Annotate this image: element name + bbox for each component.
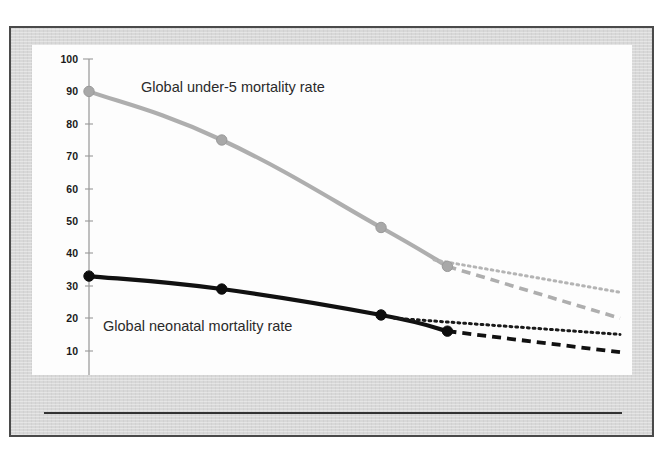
data-point-marker [376, 310, 386, 320]
y-tick-label-30: 30 [66, 280, 78, 292]
y-tick-label-90: 90 [66, 85, 78, 97]
y-tick-label-60: 60 [66, 183, 78, 195]
y-tick-label-10: 10 [66, 345, 78, 357]
y-tick-label-80: 80 [66, 118, 78, 130]
series-line-under5 [89, 91, 447, 266]
data-point-marker [217, 135, 227, 145]
data-point-marker [442, 261, 452, 271]
series-label-under5: Global under-5 mortality rate [141, 79, 325, 95]
y-tick-label-20: 20 [66, 312, 78, 324]
data-point-marker [84, 271, 94, 281]
y-tick-label-50: 50 [66, 215, 78, 227]
series-markers-under5 [84, 86, 453, 271]
data-point-marker [217, 284, 227, 294]
series-label-neonatal: Global neonatal mortality rate [103, 318, 292, 334]
y-tick-label-40: 40 [66, 247, 78, 259]
series-line-under5-projection-dotted [434, 260, 620, 292]
bottom-divider-rule [44, 412, 622, 414]
data-point-marker [84, 86, 94, 96]
series-line-neonatal-projection-dashed [447, 331, 620, 352]
y-tick-label-100: 100 [60, 53, 78, 65]
series-line-under5-projection-dashed [447, 266, 620, 318]
figure-page: 100 90 80 70 60 50 40 30 20 10 0 [0, 0, 663, 453]
y-axis-ticks [83, 59, 93, 375]
data-point-marker [442, 326, 452, 336]
figure-frame: 100 90 80 70 60 50 40 30 20 10 0 [9, 26, 654, 437]
y-tick-label-70: 70 [66, 150, 78, 162]
plot-card: 100 90 80 70 60 50 40 30 20 10 0 [32, 45, 632, 375]
mortality-line-chart: 100 90 80 70 60 50 40 30 20 10 0 [32, 45, 632, 375]
data-point-marker [376, 222, 386, 232]
